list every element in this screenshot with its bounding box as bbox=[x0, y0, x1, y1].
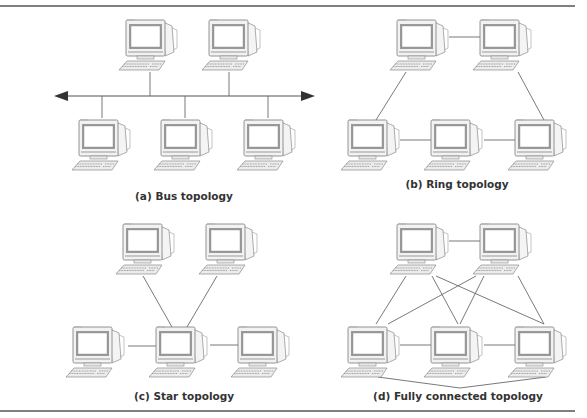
bus-topology-panel: (a) Bus topology bbox=[54, 19, 315, 202]
computer-icon bbox=[473, 19, 531, 70]
computer-icon bbox=[390, 19, 448, 70]
computer-icon bbox=[508, 326, 566, 377]
right-arrowhead-icon bbox=[301, 91, 315, 101]
computer-icon bbox=[119, 19, 177, 70]
computer-icon bbox=[390, 223, 448, 274]
caption-bus-topology: (a) Bus topology bbox=[135, 190, 233, 202]
computer-icon bbox=[341, 119, 399, 170]
caption-star-topology: (c) Star topology bbox=[134, 390, 234, 402]
computer-icon bbox=[237, 119, 295, 170]
computer-icon bbox=[72, 119, 130, 170]
computer-icon bbox=[199, 223, 257, 274]
ring-topology-panel: (b) Ring topology bbox=[341, 19, 566, 190]
computer-icon bbox=[473, 223, 531, 274]
left-arrowhead-icon bbox=[54, 91, 68, 101]
computer-icon bbox=[341, 326, 399, 377]
computer-icon bbox=[202, 19, 260, 70]
fully-connected-topology-panel: (d) Fully connected topology bbox=[341, 223, 566, 402]
computer-icon bbox=[149, 326, 207, 377]
computer-icon bbox=[424, 119, 482, 170]
network-topologies-figure: (a) Bus topology (b) Ring topology (c) S… bbox=[0, 0, 587, 418]
caption-fully-connected-topology: (d) Fully connected topology bbox=[373, 390, 543, 402]
computer-icon bbox=[66, 326, 124, 377]
star-topology-panel: (c) Star topology bbox=[66, 223, 289, 402]
caption-ring-topology: (b) Ring topology bbox=[405, 178, 508, 190]
computer-icon bbox=[231, 326, 289, 377]
computer-icon bbox=[154, 119, 212, 170]
computer-icon bbox=[424, 326, 482, 377]
computer-icon bbox=[116, 223, 174, 274]
computer-icon bbox=[508, 119, 566, 170]
